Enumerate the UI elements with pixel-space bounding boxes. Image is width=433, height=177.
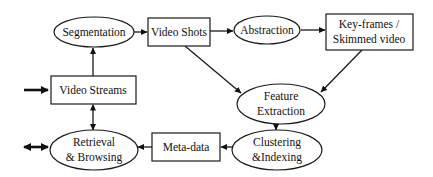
meta-data-label: Meta-data bbox=[163, 141, 210, 153]
retrieval-label-line1: Retrieval bbox=[73, 136, 115, 148]
feature-extraction-label-line1: Feature bbox=[264, 90, 298, 102]
segmentation-label: Segmentation bbox=[62, 26, 125, 39]
node-video-shots: Video Shots bbox=[148, 18, 210, 46]
feature-extraction-label-line2: Extraction bbox=[257, 105, 305, 117]
video-shots-label: Video Shots bbox=[151, 26, 207, 38]
video-streams-label: Video Streams bbox=[59, 84, 127, 96]
node-segmentation: Segmentation bbox=[54, 17, 134, 47]
node-video-streams: Video Streams bbox=[51, 76, 136, 104]
node-clustering-indexing: Clustering &Indexing bbox=[232, 130, 322, 170]
edge-shots-to-feature bbox=[185, 46, 241, 93]
keyframes-label-line2: Skimmed video bbox=[333, 33, 406, 45]
clustering-label-line1: Clustering bbox=[253, 136, 301, 149]
node-retrieval-browsing: Retrieval & Browsing bbox=[50, 130, 138, 170]
clustering-label-line2: &Indexing bbox=[252, 151, 302, 164]
node-meta-data: Meta-data bbox=[152, 133, 220, 161]
node-keyframes: Key-frames / Skimmed video bbox=[326, 14, 413, 50]
abstraction-label: Abstraction bbox=[240, 24, 294, 36]
node-feature-extraction: Feature Extraction bbox=[237, 84, 325, 124]
keyframes-label-line1: Key-frames / bbox=[339, 18, 400, 31]
retrieval-label-line2: & Browsing bbox=[66, 151, 123, 164]
video-processing-diagram: Segmentation Video Shots Abstraction Key… bbox=[0, 0, 433, 177]
edge-keyframes-to-feature bbox=[321, 50, 362, 92]
node-abstraction: Abstraction bbox=[234, 16, 300, 44]
